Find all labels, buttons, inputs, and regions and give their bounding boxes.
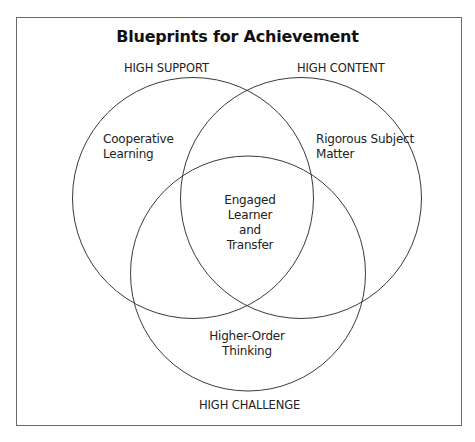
- label-rigorous-subject-matter: Rigorous Subject Matter: [316, 132, 414, 162]
- label-cooperative-learning: Cooperative Learning: [103, 132, 174, 162]
- label-line: Cooperative: [103, 132, 174, 147]
- caption-high-challenge: HIGH CHALLENGE: [199, 398, 300, 412]
- label-engaged-learner-transfer: Engaged Learner and Transfer: [210, 193, 290, 253]
- label-line: Learning: [103, 147, 174, 162]
- label-line: Rigorous Subject: [316, 132, 414, 147]
- label-line: and: [210, 223, 290, 238]
- label-line: Matter: [316, 147, 414, 162]
- label-line: Learner: [210, 208, 290, 223]
- caption-high-content: HIGH CONTENT: [297, 61, 385, 75]
- diagram-title: Blueprints for Achievement: [0, 27, 475, 46]
- label-line: Thinking: [197, 344, 297, 359]
- label-higher-order-thinking: Higher-Order Thinking: [197, 329, 297, 359]
- caption-high-support: HIGH SUPPORT: [124, 61, 209, 75]
- label-line: Higher-Order: [197, 329, 297, 344]
- label-line: Engaged: [210, 193, 290, 208]
- label-line: Transfer: [210, 238, 290, 253]
